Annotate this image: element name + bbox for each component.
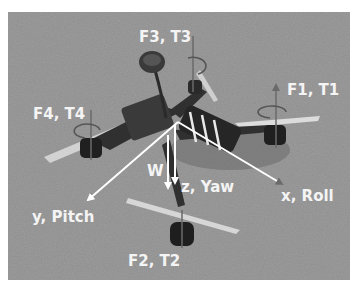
label-f3-t3: F3, T3 — [139, 28, 191, 46]
motor-3 — [188, 80, 202, 94]
label-f1-t1: F1, T1 — [287, 81, 339, 99]
label-z-yaw: z, Yaw — [181, 178, 234, 196]
label-f2-t2: F2, T2 — [128, 252, 180, 270]
label-weight: W — [147, 162, 164, 180]
motor-1 — [264, 125, 286, 145]
label-f4-t4: F4, T4 — [33, 105, 85, 123]
label-y-pitch: y, Pitch — [32, 208, 94, 226]
drone-photo: F3, T3 F1, T1 F4, T4 W z, Yaw x, Roll y,… — [8, 12, 350, 280]
label-x-roll: x, Roll — [281, 187, 334, 205]
